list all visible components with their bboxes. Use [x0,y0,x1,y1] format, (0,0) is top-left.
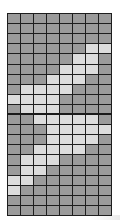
grid-cell-r17-c1[interactable] [21,186,33,195]
grid-cell-r7-c0[interactable] [8,85,20,94]
grid-cell-r16-c2[interactable] [34,176,46,185]
grid-cell-r5-c4[interactable] [60,65,72,74]
grid-cell-r18-c5[interactable] [73,196,85,205]
grid-cell-r12-c7[interactable] [99,135,111,144]
grid-cell-r8-c7[interactable] [99,95,111,104]
grid-cell-r5-c3[interactable] [47,65,59,74]
grid-cell-r13-c2[interactable] [34,145,46,154]
grid-cell-r6-c3[interactable] [47,75,59,84]
grid-cell-r16-c5[interactable] [73,176,85,185]
grid-cell-r4-c2[interactable] [34,54,46,63]
grid-cell-r8-c2[interactable] [34,95,46,104]
grid-cell-r5-c0[interactable] [8,65,20,74]
grid-cell-r16-c4[interactable] [60,176,72,185]
grid-cell-r13-c0[interactable] [8,145,20,154]
grid-cell-r0-c3[interactable] [47,14,59,23]
grid-cell-r3-c3[interactable] [47,44,59,53]
grid-cell-r2-c7[interactable] [99,34,111,43]
grid-cell-r5-c1[interactable] [21,65,33,74]
grid-cell-r0-c0[interactable] [8,14,20,23]
grid-cell-r3-c5[interactable] [73,44,85,53]
grid-cell-r12-c3[interactable] [47,135,59,144]
grid-cell-r10-c2[interactable] [34,115,46,124]
grid-cell-r7-c4[interactable] [60,85,72,94]
grid-cell-r6-c2[interactable] [34,75,46,84]
grid-cell-r5-c6[interactable] [86,65,98,74]
grid-cell-r15-c3[interactable] [47,166,59,175]
grid-cell-r2-c1[interactable] [21,34,33,43]
grid-cell-r6-c5[interactable] [73,75,85,84]
grid-cell-r10-c0[interactable] [8,115,20,124]
grid-cell-r0-c5[interactable] [73,14,85,23]
grid-cell-r10-c4[interactable] [60,115,72,124]
grid-cell-r6-c0[interactable] [8,75,20,84]
grid-cell-r13-c7[interactable] [99,145,111,154]
grid-cell-r7-c5[interactable] [73,85,85,94]
grid-cell-r8-c5[interactable] [73,95,85,104]
grid-cell-r11-c3[interactable] [47,125,59,134]
grid-cell-r16-c1[interactable] [21,176,33,185]
grid-cell-r14-c0[interactable] [8,155,20,164]
grid-cell-r11-c4[interactable] [60,125,72,134]
grid-cell-r4-c6[interactable] [86,54,98,63]
grid-cell-r3-c2[interactable] [34,44,46,53]
grid-cell-r8-c6[interactable] [86,95,98,104]
grid-cell-r14-c3[interactable] [47,155,59,164]
grid-cell-r15-c6[interactable] [86,166,98,175]
grid-cell-r13-c1[interactable] [21,145,33,154]
grid-cell-r7-c6[interactable] [86,85,98,94]
grid-cell-r17-c4[interactable] [60,186,72,195]
grid-cell-r15-c5[interactable] [73,166,85,175]
grid-cell-r16-c6[interactable] [86,176,98,185]
grid-cell-r4-c4[interactable] [60,54,72,63]
grid-cell-r19-c4[interactable] [60,206,72,215]
grid-cell-r12-c0[interactable] [8,135,20,144]
grid-cell-r0-c7[interactable] [99,14,111,23]
grid-cell-r10-c1[interactable] [21,115,33,124]
grid-cell-r19-c2[interactable] [34,206,46,215]
grid-cell-r0-c2[interactable] [34,14,46,23]
grid-cell-r4-c3[interactable] [47,54,59,63]
grid-cell-r2-c4[interactable] [60,34,72,43]
grid-cell-r18-c0[interactable] [8,196,20,205]
grid-cell-r14-c4[interactable] [60,155,72,164]
grid-cell-r3-c4[interactable] [60,44,72,53]
grid-cell-r11-c0[interactable] [8,125,20,134]
grid-cell-r19-c5[interactable] [73,206,85,215]
grid-cell-r6-c6[interactable] [86,75,98,84]
grid-cell-r12-c1[interactable] [21,135,33,144]
grid-cell-r15-c1[interactable] [21,166,33,175]
grid-cell-r3-c6[interactable] [86,44,98,53]
grid-cell-r17-c6[interactable] [86,186,98,195]
grid-cell-r10-c3[interactable] [47,115,59,124]
grid-cell-r8-c3[interactable] [47,95,59,104]
grid-cell-r2-c0[interactable] [8,34,20,43]
grid-cell-r1-c0[interactable] [8,24,20,33]
grid-cell-r12-c4[interactable] [60,135,72,144]
grid-cell-r5-c2[interactable] [34,65,46,74]
grid-cell-r1-c3[interactable] [47,24,59,33]
grid-cell-r1-c1[interactable] [21,24,33,33]
grid-cell-r16-c0[interactable] [8,176,20,185]
grid-cell-r11-c1[interactable] [21,125,33,134]
grid-cell-r12-c5[interactable] [73,135,85,144]
grid-cell-r17-c5[interactable] [73,186,85,195]
grid-cell-r10-c6[interactable] [86,115,98,124]
grid-cell-r18-c2[interactable] [34,196,46,205]
grid-cell-r14-c1[interactable] [21,155,33,164]
grid-cell-r3-c1[interactable] [21,44,33,53]
grid-cell-r14-c7[interactable] [99,155,111,164]
grid-cell-r7-c7[interactable] [99,85,111,94]
grid-cell-r8-c4[interactable] [60,95,72,104]
grid-cell-r2-c6[interactable] [86,34,98,43]
grid-cell-r11-c2[interactable] [34,125,46,134]
grid-cell-r4-c7[interactable] [99,54,111,63]
grid-cell-r17-c0[interactable] [8,186,20,195]
grid-cell-r18-c6[interactable] [86,196,98,205]
grid-cell-r13-c5[interactable] [73,145,85,154]
grid-cell-r18-c7[interactable] [99,196,111,205]
grid-cell-r14-c6[interactable] [86,155,98,164]
grid-cell-r11-c6[interactable] [86,125,98,134]
grid-cell-r19-c7[interactable] [99,206,111,215]
grid-cell-r18-c4[interactable] [60,196,72,205]
